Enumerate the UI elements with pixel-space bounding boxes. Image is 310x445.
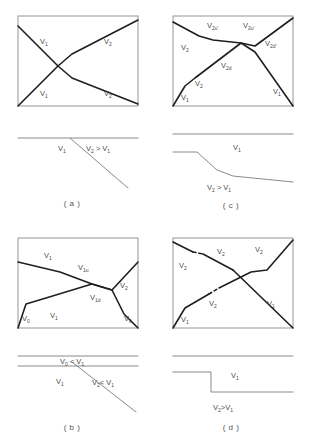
panel-d-curve-v2-descending-seg1: [173, 242, 193, 252]
panel-b-profile-label-v2-comparison: V2< V1: [92, 378, 114, 388]
panel-d-curve-v2-ascending-seg1: [173, 294, 209, 328]
panel-c-label-v2d: V2d: [221, 61, 232, 71]
panel-d-label-v2-left: V2: [179, 261, 187, 271]
panel-c-label-v1-left: V1: [181, 93, 189, 103]
panel-b-label-v1u: V1u: [78, 263, 89, 273]
panel-b: V1 V1u V2 V1d V0 V1 V0: [0, 222, 155, 444]
panel-c-curve-v2d-ascending: [173, 43, 293, 106]
panel-c-label-v2u-prime: V2u': [207, 21, 219, 31]
panel-b-label-v0-left: V0: [22, 314, 30, 324]
panel-d: V2 V2 V2 V2 V1 V1 V1 V2>V1: [155, 222, 310, 444]
panel-b-profile-label-v1: V1: [56, 377, 64, 387]
panel-b-label-v1-mid: V1: [50, 311, 58, 321]
panel-c: V2 V2u' V2u' V2d' V2d V2 V1 V1: [155, 0, 310, 222]
panel-a: V1 V1 V2 V2 V1 V2 > V1 ( a ): [0, 0, 155, 222]
panel-d-curve-v2-descending-seg2: [203, 254, 233, 270]
panel-b-curve-v1d-ascending: [18, 284, 138, 328]
panel-a-label-v2-upper: V2: [104, 37, 112, 47]
figure-root: V1 V1 V2 V2 V1 V2 > V1 ( a ): [0, 0, 310, 445]
panel-b-label-v2: V2: [120, 281, 128, 291]
panel-d-profile-label-comparison: V2>V1: [213, 403, 233, 413]
panel-a-caption: ( a ): [64, 199, 81, 208]
panel-a-curve-v1-ascending: [18, 20, 138, 106]
panel-d-curve-v2-descending-seg3: [233, 270, 293, 328]
panel-d-label-v1-left: V1: [181, 315, 189, 325]
panel-a-label-v1-lower: V1: [40, 89, 48, 99]
panel-a-label-v2-lower: V2: [104, 89, 112, 99]
panel-c-profile-step: [173, 152, 293, 182]
panel-c-label-v2d-prime: V2d': [265, 39, 277, 49]
panel-b-profile-slope: [72, 362, 136, 412]
panel-b-label-v1d: V1d: [90, 293, 101, 303]
panel-d-gap-lower-icon: [209, 288, 219, 294]
panel-a-curve-v1-descending: [18, 26, 138, 104]
panel-c-label-v2b-prime: V2u': [243, 21, 255, 31]
panel-a-profile-label-v1: V1: [58, 144, 66, 154]
panel-c-profile-label-v1: V1: [233, 143, 241, 153]
panel-a-profile-label-comparison: V2 > V1: [86, 144, 110, 154]
panel-d-caption: ( d ): [223, 423, 240, 432]
panel-b-label-v0-right: V0: [124, 314, 132, 324]
panel-c-profile-label-comparison: V2 > V1: [207, 183, 231, 193]
panel-b-label-v1-top: V1: [44, 251, 52, 261]
panel-b-profile-label-v0-comparison: V0 < V1: [60, 357, 84, 367]
panel-d-profile-label-v1: V1: [231, 371, 239, 381]
panel-a-label-v1-upper: V1: [40, 37, 48, 47]
panel-c-caption: ( c ): [223, 201, 239, 210]
panel-b-caption: ( b ): [64, 423, 81, 432]
panel-d-label-v2-lower: V2: [209, 299, 217, 309]
panel-d-gap-upper-icon: [193, 252, 203, 254]
panel-d-label-v2-mid: V2: [217, 247, 225, 257]
panel-c-label-v2: V2: [181, 43, 189, 53]
panel-d-label-v1-right: V1: [267, 299, 275, 309]
panel-c-label-v2-lower: V2: [195, 79, 203, 89]
panel-c-curve-v2-upper-branch: [173, 18, 293, 46]
panel-d-label-v2-right: V2: [255, 245, 263, 255]
